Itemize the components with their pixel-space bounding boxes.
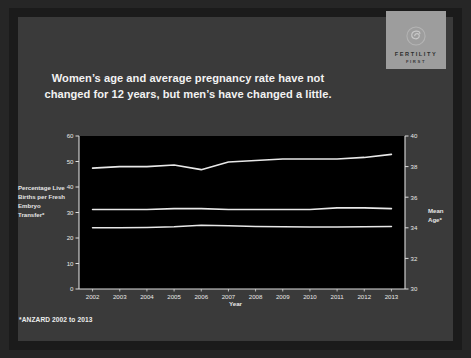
slide-title: Women’s age and average pregnancy rate h…: [38, 70, 338, 103]
y-axis-label-right: Mean Age*: [428, 206, 458, 224]
x-axis-label: Year: [0, 300, 471, 307]
chart-footnote: *ANZARD 2002 to 2013: [19, 316, 92, 323]
chart-plot-area: 0102030405060303234363840200220032004200…: [60, 128, 420, 300]
spiral-circle-emblem-icon: [403, 23, 429, 49]
y-axis-right-tick-label: 40: [411, 132, 418, 139]
x-axis-tick-label: 2007: [222, 293, 236, 300]
x-axis-tick-label: 2013: [385, 293, 399, 300]
y-axis-right-tick-label: 36: [411, 194, 418, 201]
plot-background: [79, 136, 405, 289]
x-axis-tick-label: 2002: [86, 293, 100, 300]
line-chart: 0102030405060303234363840200220032004200…: [60, 128, 420, 300]
y-axis-left-tick-label: 10: [67, 260, 74, 267]
x-axis-tick-label: 2009: [276, 293, 290, 300]
x-axis-tick-label: 2012: [357, 293, 371, 300]
x-axis-tick-label: 2006: [194, 293, 208, 300]
x-axis-tick-label: 2011: [331, 293, 345, 300]
x-axis-tick-label: 2004: [140, 293, 154, 300]
y-axis-right-tick-label: 32: [411, 255, 418, 262]
fertility-first-logo: FERTILITY FIRST: [386, 11, 446, 69]
x-axis-tick-label: 2005: [167, 293, 181, 300]
y-axis-left-tick-label: 20: [67, 234, 74, 241]
logo-wordmark: FERTILITY: [395, 51, 438, 58]
y-axis-right-tick-label: 34: [411, 224, 418, 231]
y-axis-right-tick-label: 30: [411, 285, 418, 292]
y-axis-left-tick-label: 40: [67, 183, 74, 190]
slide-root: FERTILITY FIRST Women’s age and average …: [0, 0, 471, 358]
x-axis-tick-label: 2003: [113, 293, 127, 300]
y-axis-left-tick-label: 60: [67, 132, 74, 139]
x-axis-tick-label: 2008: [249, 293, 263, 300]
y-axis-left-tick-label: 30: [67, 209, 74, 216]
x-axis-tick-label: 2010: [303, 293, 317, 300]
y-axis-left-tick-label: 0: [70, 285, 74, 292]
logo-submark: FIRST: [406, 59, 426, 64]
y-axis-left-tick-label: 50: [67, 158, 74, 165]
y-axis-label-left: Percentage Live Births per Fresh Embryo …: [18, 183, 66, 220]
y-axis-right-tick-label: 38: [411, 163, 418, 170]
